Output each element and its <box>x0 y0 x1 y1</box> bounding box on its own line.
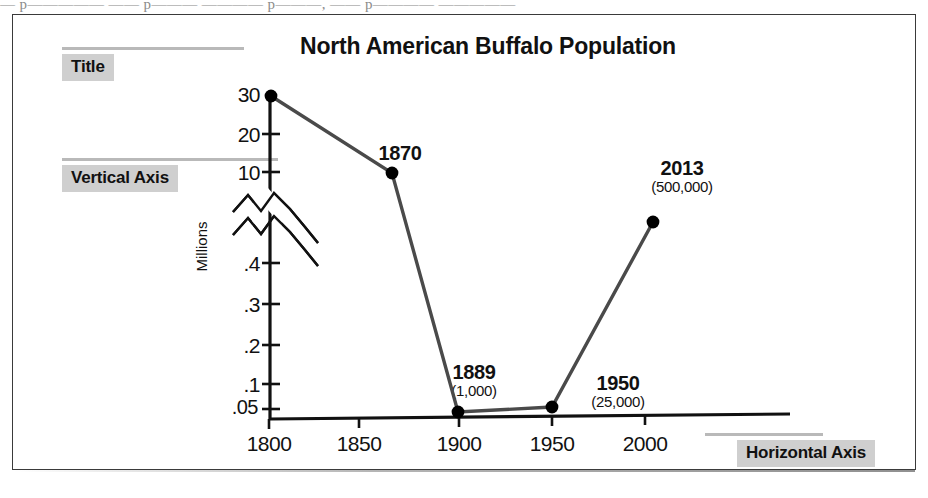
y-tick-label-04: .4 <box>198 252 260 276</box>
x-tick-label-1900: 1900 <box>422 432 496 456</box>
y-tick-label-03: .3 <box>198 293 260 317</box>
data-label-1889-year: 1889 <box>412 362 536 383</box>
callout-vertical-axis: Vertical Axis <box>62 165 178 192</box>
callout-leader-horizontal-axis <box>705 433 823 436</box>
callout-leader-title <box>62 47 244 50</box>
x-tick-label-1800: 1800 <box>232 432 306 456</box>
data-label-2013-value: (500,000) <box>620 179 744 196</box>
y-tick-label-10: 10 <box>198 161 260 185</box>
callout-title: Title <box>62 54 114 81</box>
data-label-1889-value: (1,000) <box>412 383 536 400</box>
y-tick-label-005: .05 <box>196 396 258 419</box>
y-tick-label-02: .2 <box>198 334 260 358</box>
chart-title: North American Buffalo Population <box>228 33 748 60</box>
data-label-1889: 1889 (1,000) <box>412 362 536 399</box>
data-label-2013-year: 2013 <box>620 158 744 179</box>
figure-frame <box>12 14 916 470</box>
callout-horizontal-axis: Horizontal Axis <box>737 440 875 467</box>
data-label-1950: 1950 (25,000) <box>556 373 680 410</box>
x-tick-label-2000: 2000 <box>608 432 682 456</box>
x-tick-label-1850: 1850 <box>322 432 396 456</box>
scan-artifact-text: — p————— —— p——— ———— p———, —— p———— ———… <box>0 0 928 12</box>
y-tick-label-30: 30 <box>198 83 260 107</box>
data-label-1950-value: (25,000) <box>556 394 680 411</box>
data-label-1870: 1870 <box>340 143 460 164</box>
data-label-1950-year: 1950 <box>556 373 680 394</box>
y-tick-label-20: 20 <box>198 123 260 147</box>
y-tick-label-01: .1 <box>198 373 260 397</box>
data-label-1870-year: 1870 <box>340 143 460 164</box>
data-label-2013: 2013 (500,000) <box>620 158 744 195</box>
x-tick-label-1950: 1950 <box>515 432 589 456</box>
